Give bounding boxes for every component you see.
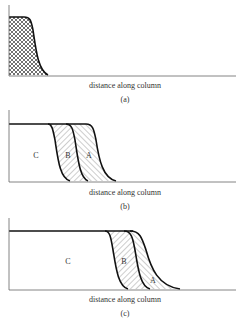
panel-caption: (c) — [121, 309, 130, 318]
region-label-a: A — [150, 276, 156, 285]
panel-caption: (a) — [121, 95, 130, 104]
panel-b: C B A distance along column (b) — [9, 110, 236, 211]
column-chromatography-figure: distance along column (a) C B A distance… — [0, 0, 240, 321]
x-axis-label: distance along column — [89, 81, 161, 90]
region-label-b: B — [65, 151, 70, 160]
mixture-band — [9, 17, 48, 75]
region-label-c: C — [65, 257, 70, 266]
panel-c: C B A distance along column (c) — [9, 218, 236, 318]
panel-caption: (b) — [120, 202, 130, 211]
region-label-c: C — [33, 151, 38, 160]
panel-a: distance along column (a) — [9, 5, 236, 104]
region-label-b: B — [121, 257, 126, 266]
x-axis-label: distance along column — [89, 188, 161, 197]
x-axis-label: distance along column — [89, 295, 161, 304]
region-label-a: A — [86, 151, 92, 160]
